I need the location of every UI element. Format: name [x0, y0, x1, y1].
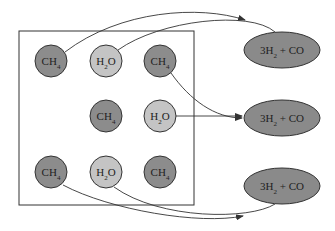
molecule-h2o: H2O: [144, 100, 176, 132]
molecule-h2o: H2O: [90, 156, 122, 188]
product-list: 3H2 + CO3H2 + CO3H2 + CO: [244, 32, 320, 204]
molecule-ch4: CH4: [35, 156, 67, 188]
arrow-ch4-to-product-3: [63, 185, 243, 219]
molecule-ch4: CH4: [90, 100, 122, 132]
product-syngas: 3H2 + CO: [244, 168, 320, 204]
product-syngas: 3H2 + CO: [244, 100, 320, 136]
molecule-h2o: H2O: [90, 45, 122, 77]
arrow-ch4-to-product-2: [171, 73, 242, 118]
product-syngas: 3H2 + CO: [244, 32, 320, 68]
molecule-ch4: CH4: [144, 45, 176, 77]
molecule-grid: CH4H2OCH4CH4H2OCH4H2OCH4: [35, 45, 176, 188]
reaction-diagram: CH4H2OCH4CH4H2OCH4H2OCH4 3H2 + CO3H2 + C…: [0, 0, 335, 231]
molecule-ch4: CH4: [144, 156, 176, 188]
molecule-ch4: CH4: [35, 45, 67, 77]
